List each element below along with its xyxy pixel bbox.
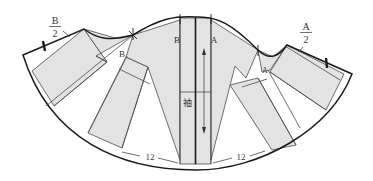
measure-right-leader-1 [213,158,232,163]
label-b-center: B [174,35,180,45]
measure-right-leader-2 [250,151,265,156]
measure-left-label: 12 [146,152,155,162]
a-half-numerator: A [302,21,310,32]
b-half-numerator: B [52,15,59,26]
right-outer-piece [270,45,344,110]
pattern-diagram: B 2 A 2 B B A A 袖 12 12 [0,0,373,181]
measure-left-leader-2 [158,158,178,163]
label-a-center: A [211,35,218,45]
measure-left-leader-1 [122,152,140,156]
sleeve-label: 袖 [183,97,192,108]
measure-right-label: 12 [237,152,246,162]
right-middle-piece [230,78,296,150]
left-notch [43,41,45,51]
a-half-denominator: 2 [304,34,309,45]
right-notch [326,58,327,68]
label-a-right: A [262,66,268,75]
b-half-denominator: 2 [53,28,58,39]
label-b-left: B [119,49,125,59]
